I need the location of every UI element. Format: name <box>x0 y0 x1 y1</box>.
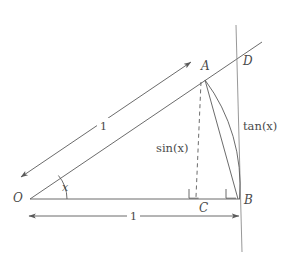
point-label-c: C <box>199 202 208 214</box>
right-angle-marker-at-c <box>189 189 199 198</box>
trigonometry-figure: O A D B C 1 1 sin(x) tan(x) x <box>0 0 290 264</box>
hypotenuse-length-label: 1 <box>100 121 107 132</box>
segment-ab <box>205 80 238 199</box>
dashed-segment-ac <box>196 82 201 197</box>
right-angle-marker-at-b <box>226 189 236 198</box>
angle-label-x: x <box>62 182 68 193</box>
baseline-length-label: 1 <box>130 211 137 222</box>
tangent-label: tan(x) <box>243 121 277 133</box>
point-label-b: B <box>244 194 253 206</box>
point-label-d: D <box>243 55 253 67</box>
tangent-vertical-line <box>236 25 242 252</box>
point-label-a: A <box>201 60 210 72</box>
sine-label: sin(x) <box>156 143 188 155</box>
point-label-o: O <box>13 192 23 204</box>
